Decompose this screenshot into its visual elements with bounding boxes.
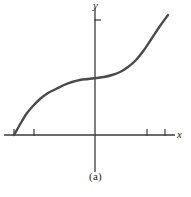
curve-path — [14, 15, 168, 135]
figure-caption: (a) — [0, 170, 191, 182]
plot-canvas — [0, 0, 191, 197]
y-axis-label: y — [93, 0, 98, 11]
figure-container: y x (a) — [0, 0, 191, 197]
x-axis-label: x — [177, 129, 182, 140]
